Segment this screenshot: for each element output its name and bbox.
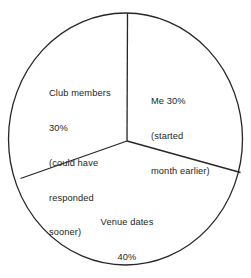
slice-label-line: month earlier): [151, 166, 210, 178]
slice-label-venue-dates: Venue dates 40%: [77, 194, 177, 278]
slice-label-line: 30%: [49, 123, 111, 135]
slice-label-line: Club members: [49, 88, 111, 100]
pie-chart: Club members 30% (could have responded s…: [0, 0, 251, 278]
slice-label-line: Venue dates: [77, 217, 177, 229]
slice-label-line: Me 30%: [151, 96, 210, 108]
pie-divider-top: [127, 13, 128, 141]
slice-label-line: 40%: [77, 252, 177, 264]
slice-label-line: (started: [151, 131, 210, 143]
slice-label-line: (could have: [49, 158, 111, 170]
slice-label-me: Me 30% (started month earlier): [151, 73, 210, 201]
